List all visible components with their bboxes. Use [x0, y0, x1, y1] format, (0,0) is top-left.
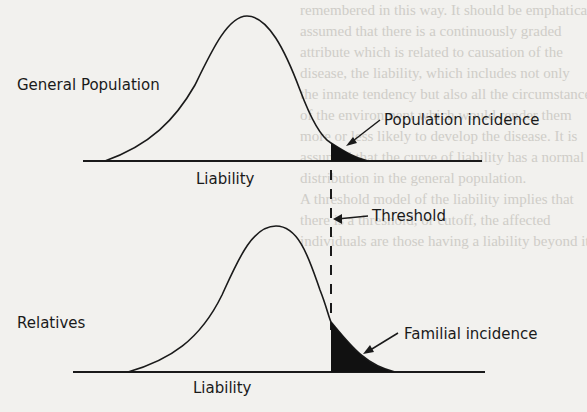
general-population-label: General Population — [17, 76, 160, 94]
top-liability-label: Liability — [196, 170, 255, 188]
familial-incidence-label: Familial incidence — [404, 325, 538, 343]
population-incidence-label: Population incidence — [384, 111, 539, 129]
familial-incidence-area — [331, 322, 395, 372]
relatives-distribution — [73, 226, 485, 372]
liability-diagram — [0, 0, 587, 412]
threshold-label: Threshold — [372, 207, 446, 225]
arrowhead-icon — [333, 214, 342, 224]
arrowhead-icon — [363, 345, 374, 354]
relatives-label: Relatives — [17, 314, 85, 332]
bottom-liability-label: Liability — [193, 379, 252, 397]
